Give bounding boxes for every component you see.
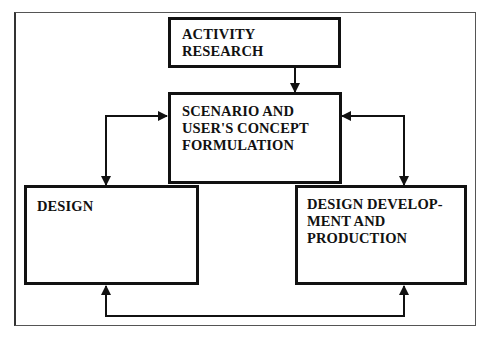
design-label: DESIGN [37,198,93,215]
design-development-label: DESIGN DEVELOP- MENT AND PRODUCTION [307,196,443,247]
scenario-box: SCENARIO AND USER'S CONCEPT FORMULATION [168,92,342,184]
arrow-scenario-development [342,116,404,185]
activity-research-box: ACTIVITY RESEARCH [168,17,341,68]
arrow-design-development [106,286,404,316]
design-development-box: DESIGN DEVELOP- MENT AND PRODUCTION [295,185,467,285]
activity-research-label: ACTIVITY RESEARCH [182,26,263,60]
arrow-scenario-design [106,116,167,185]
scenario-label: SCENARIO AND USER'S CONCEPT FORMULATION [182,103,309,154]
design-box: DESIGN [24,185,199,285]
